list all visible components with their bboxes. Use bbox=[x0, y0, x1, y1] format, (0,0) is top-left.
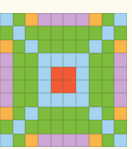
grid-cell-blue bbox=[38, 67, 51, 80]
grid-cell-green bbox=[25, 26, 38, 39]
grid-cell-red bbox=[63, 67, 76, 80]
grid-cell-green bbox=[38, 26, 51, 39]
grid-cell-blue bbox=[89, 107, 102, 120]
grid-cell-blue bbox=[38, 80, 51, 93]
grid-cell-green bbox=[76, 40, 89, 53]
grid-cell-green bbox=[13, 53, 26, 66]
grid-cell-green bbox=[0, 120, 13, 133]
grid-cell-green bbox=[25, 93, 38, 106]
grid-cell-red bbox=[63, 80, 76, 93]
grid-cell-blue bbox=[76, 93, 89, 106]
grid-cell-purple bbox=[76, 134, 89, 147]
grid-cell-purple bbox=[63, 134, 76, 147]
grid-cell-green bbox=[63, 120, 76, 133]
grid-cell-blue bbox=[25, 107, 38, 120]
grid-cell-green bbox=[51, 120, 64, 133]
grid-cell-green bbox=[63, 26, 76, 39]
grid-cell-purple bbox=[51, 134, 64, 147]
grid-cell-green bbox=[89, 53, 102, 66]
grid-cell-blue bbox=[76, 67, 89, 80]
grid-cell-green bbox=[25, 80, 38, 93]
grid-cell-purple bbox=[114, 67, 127, 80]
grid-cell-purple bbox=[0, 80, 13, 93]
grid-cell-green bbox=[13, 13, 26, 26]
grid-cell-green bbox=[89, 93, 102, 106]
grid-cell-purple bbox=[0, 93, 13, 106]
grid-cell-green bbox=[25, 53, 38, 66]
grid-cell-green bbox=[102, 107, 115, 120]
grid-cell-blue bbox=[102, 120, 115, 133]
grid-cell-purple bbox=[63, 13, 76, 26]
grid-cell-green bbox=[13, 67, 26, 80]
grid-cell-blue bbox=[13, 120, 26, 133]
grid-cell-green bbox=[76, 26, 89, 39]
grid-cell-green bbox=[89, 120, 102, 133]
grid-cell-orange bbox=[114, 107, 127, 120]
grid-cell-blue bbox=[76, 80, 89, 93]
grid-cell-orange bbox=[0, 40, 13, 53]
grid-cell-green bbox=[114, 120, 127, 133]
grid-cell-green bbox=[25, 120, 38, 133]
grid-cell-green bbox=[13, 134, 26, 147]
grid-cell-orange bbox=[89, 13, 102, 26]
grid-cell-green bbox=[89, 80, 102, 93]
grid-cell-green bbox=[102, 67, 115, 80]
grid-cell-green bbox=[0, 26, 13, 39]
grid-cell-orange bbox=[89, 134, 102, 147]
grid-cell-blue bbox=[114, 134, 127, 147]
grid-cell-green bbox=[102, 40, 115, 53]
grid-cell-purple bbox=[38, 13, 51, 26]
grid-cell-green bbox=[25, 67, 38, 80]
grid-cell-purple bbox=[51, 13, 64, 26]
grid-cell-purple bbox=[114, 93, 127, 106]
grid-cell-green bbox=[102, 13, 115, 26]
grid-cell-purple bbox=[76, 13, 89, 26]
grid-cell-red bbox=[51, 67, 64, 80]
grid-cell-purple bbox=[114, 53, 127, 66]
grid-cell-blue bbox=[0, 134, 13, 147]
grid-cell-red bbox=[51, 80, 64, 93]
grid-cell-green bbox=[51, 40, 64, 53]
grid-cell-purple bbox=[38, 134, 51, 147]
grid-cell-blue bbox=[13, 26, 26, 39]
grid-cell-green bbox=[13, 93, 26, 106]
grid-cell-green bbox=[38, 40, 51, 53]
grid-cell-green bbox=[38, 120, 51, 133]
grid-cell-green bbox=[76, 107, 89, 120]
grid-cell-orange bbox=[0, 107, 13, 120]
grid-cell-green bbox=[13, 40, 26, 53]
grid-cell-blue bbox=[51, 93, 64, 106]
grid-cell-green bbox=[89, 67, 102, 80]
grid-cell-green bbox=[38, 107, 51, 120]
grid-cell-purple bbox=[0, 53, 13, 66]
grid-cell-green bbox=[63, 107, 76, 120]
grid-cell-green bbox=[89, 26, 102, 39]
grid-cell-green bbox=[13, 107, 26, 120]
grid-cell-blue bbox=[76, 53, 89, 66]
grid-cell-green bbox=[51, 26, 64, 39]
grid-cell-blue bbox=[25, 40, 38, 53]
grid-cell-blue bbox=[0, 13, 13, 26]
grid-cell-blue bbox=[102, 26, 115, 39]
grid-cell-blue bbox=[38, 53, 51, 66]
grid-cell-green bbox=[102, 134, 115, 147]
grid-cell-green bbox=[76, 120, 89, 133]
grid-cell-green bbox=[102, 93, 115, 106]
grid-cell-purple bbox=[0, 67, 13, 80]
grid-cell-purple bbox=[114, 80, 127, 93]
grid-cell-orange bbox=[25, 134, 38, 147]
grid-cell-blue bbox=[51, 53, 64, 66]
color-tile-grid bbox=[0, 13, 127, 147]
grid-cell-green bbox=[102, 80, 115, 93]
grid-cell-green bbox=[102, 53, 115, 66]
grid-cell-green bbox=[114, 26, 127, 39]
grid-cell-blue bbox=[63, 93, 76, 106]
grid-cell-green bbox=[13, 80, 26, 93]
grid-cell-blue bbox=[63, 53, 76, 66]
grid-cell-green bbox=[51, 107, 64, 120]
grid-cell-orange bbox=[114, 40, 127, 53]
grid-cell-orange bbox=[25, 13, 38, 26]
grid-cell-blue bbox=[114, 13, 127, 26]
grid-cell-blue bbox=[89, 40, 102, 53]
grid-cell-green bbox=[63, 40, 76, 53]
